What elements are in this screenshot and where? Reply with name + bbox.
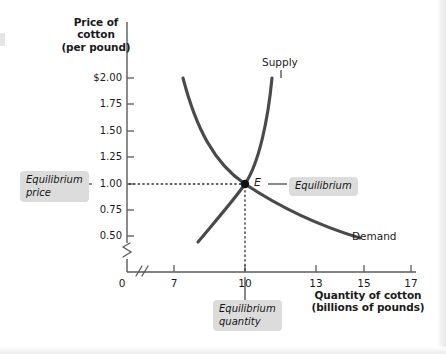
demand-curve-label: Demand bbox=[352, 230, 397, 242]
equilibrium-point-label: E bbox=[254, 177, 261, 190]
y-tick-label-0-75: 0.75 bbox=[78, 204, 122, 216]
callout-equilibrium-price: Equilibrium price bbox=[20, 171, 89, 202]
y-tick-label-2-00: $2.00 bbox=[78, 72, 122, 84]
callout-equilibrium-quantity: Equilibrium quantity bbox=[213, 300, 282, 331]
equilibrium-point-marker bbox=[241, 180, 249, 188]
figure-canvas: Price of cotton (per pound) $2.00 1.75 1… bbox=[0, 0, 446, 354]
supply-curve bbox=[198, 78, 272, 242]
y-axis-title: Price of cotton (per pound) bbox=[57, 16, 135, 53]
x-axis-break-icon bbox=[136, 266, 148, 276]
page-edge-right bbox=[437, 0, 446, 354]
x-tick-label-10: 10 bbox=[234, 277, 256, 289]
x-tick-label-0: 0 bbox=[111, 277, 133, 289]
y-tick-label-0-50: 0.50 bbox=[78, 230, 122, 242]
supply-curve-label: Supply bbox=[262, 56, 298, 68]
y-tick-marks bbox=[127, 78, 134, 236]
x-tick-label-7: 7 bbox=[163, 277, 185, 289]
x-axis-title: Quantity of cotton (billions of pounds) bbox=[300, 289, 436, 314]
x-tick-label-13: 13 bbox=[305, 277, 327, 289]
x-tick-label-17: 17 bbox=[400, 277, 422, 289]
y-tick-label-1-50: 1.50 bbox=[78, 125, 122, 137]
y-axis-break-icon bbox=[123, 243, 131, 257]
x-tick-marks bbox=[174, 265, 411, 272]
callout-equilibrium: Equilibrium bbox=[289, 177, 358, 196]
page-edge-bottom bbox=[0, 347, 446, 354]
x-tick-label-15: 15 bbox=[353, 277, 375, 289]
y-tick-label-1-25: 1.25 bbox=[78, 151, 122, 163]
y-tick-label-1-75: 1.75 bbox=[78, 98, 122, 110]
demand-curve bbox=[183, 78, 360, 238]
